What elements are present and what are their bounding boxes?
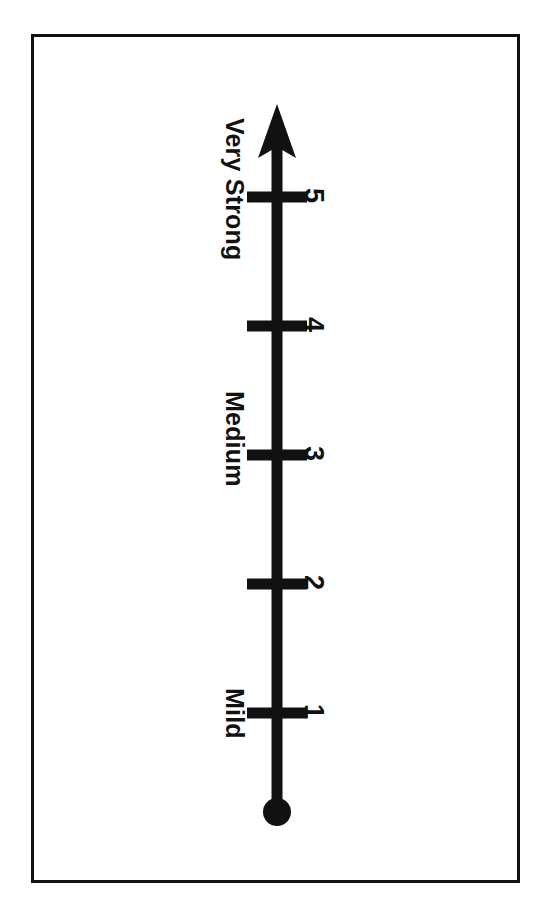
figure-canvas: Very Strong Medium Mild 5 4 3 2 1	[0, 0, 546, 913]
axis-endpoint-dot-icon	[263, 798, 291, 826]
rating-scale-diagram: Very Strong Medium Mild 5 4 3 2 1	[0, 0, 546, 913]
tick-label-4: 4	[300, 317, 327, 332]
anchor-label-very-strong: Very Strong	[222, 118, 247, 261]
scale-axis-graphic	[0, 0, 546, 913]
tick-label-5: 5	[300, 188, 327, 203]
anchor-label-mild: Mild	[222, 688, 247, 739]
tick-label-1: 1	[300, 704, 327, 719]
tick-label-2: 2	[300, 575, 327, 590]
tick-label-3: 3	[300, 446, 327, 461]
anchor-label-medium: Medium	[222, 391, 247, 487]
